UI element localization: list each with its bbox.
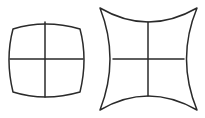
barrel-outline [9,24,84,97]
barrel-distortion-grid [9,22,84,97]
pincushion-distortion-grid [100,8,197,110]
distortion-diagram [0,0,205,118]
